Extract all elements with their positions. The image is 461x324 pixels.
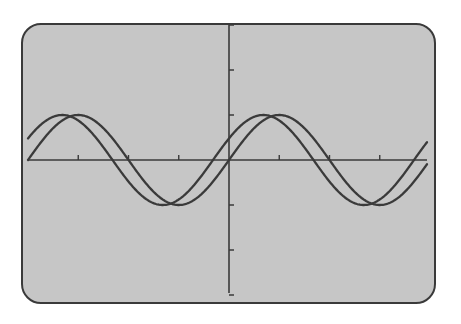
plot-area — [23, 25, 434, 302]
graph-screen — [21, 23, 436, 304]
